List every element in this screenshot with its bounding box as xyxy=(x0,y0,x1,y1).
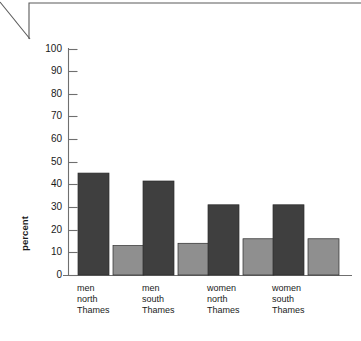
x-axis-category-label-line: Thames xyxy=(207,305,277,316)
bar xyxy=(113,246,144,275)
bar xyxy=(308,239,339,275)
x-axis-category-label-line: men xyxy=(77,283,147,294)
x-axis-category-label-line: Thames xyxy=(272,305,342,316)
y-axis-tick-label: 90 xyxy=(34,66,62,76)
y-axis-tick-label: 40 xyxy=(34,179,62,189)
x-axis-category-label-line: south xyxy=(142,294,212,305)
y-axis-title: percent xyxy=(19,204,30,264)
x-axis-category-label-line: women xyxy=(207,283,277,294)
bar xyxy=(178,243,209,275)
y-axis-tick-label: 20 xyxy=(34,225,62,235)
y-axis-tick-label: 10 xyxy=(34,247,62,257)
y-axis-tick-label: 100 xyxy=(34,44,62,54)
x-axis-category-labels: mennorthThamesmensouthThameswomennorthTh… xyxy=(0,283,361,333)
y-axis-tick-label: 70 xyxy=(34,111,62,121)
bar xyxy=(243,239,274,275)
bar xyxy=(78,173,109,275)
x-axis-category-label: mennorthThames xyxy=(77,283,147,317)
y-axis-ticks xyxy=(69,50,78,276)
bar xyxy=(208,205,239,275)
x-axis-category-label-line: south xyxy=(272,294,342,305)
bar xyxy=(273,205,304,275)
x-axis-category-label-line: men xyxy=(142,283,212,294)
x-axis-category-label-line: women xyxy=(272,283,342,294)
bars-group xyxy=(78,173,339,275)
x-axis-category-label: mensouthThames xyxy=(142,283,212,317)
x-axis-category-label-line: north xyxy=(207,294,277,305)
y-axis-tick-label: 80 xyxy=(34,89,62,99)
x-axis-category-label: womensouthThames xyxy=(272,283,342,317)
x-axis-category-label-line: Thames xyxy=(142,305,212,316)
x-axis-category-label-line: north xyxy=(77,294,147,305)
x-axis-category-label-line: Thames xyxy=(77,305,147,316)
bar-chart: 0102030405060708090100 percent mennorthT… xyxy=(0,0,361,341)
y-axis-tick-label: 0 xyxy=(34,270,62,280)
y-axis-tick-label: 50 xyxy=(34,157,62,167)
y-axis-tick-label: 30 xyxy=(34,202,62,212)
y-axis-tick-label: 60 xyxy=(34,134,62,144)
bar xyxy=(143,181,174,275)
x-axis-category-label: womennorthThames xyxy=(207,283,277,317)
